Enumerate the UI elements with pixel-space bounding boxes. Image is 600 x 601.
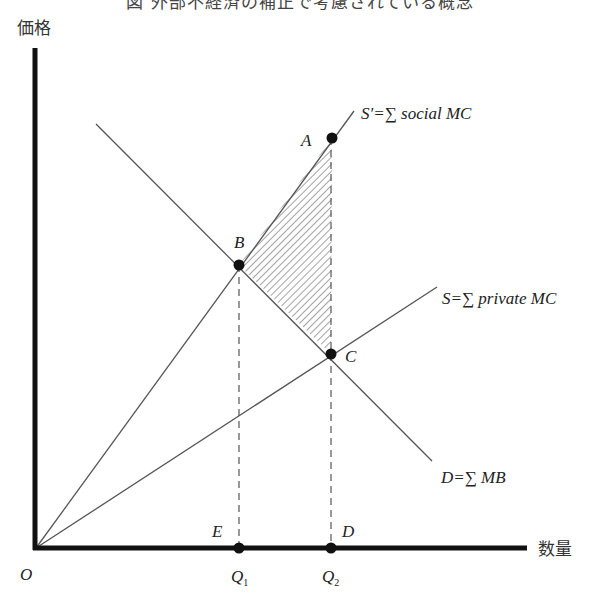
externality-diagram: 価格 数量 O A B C E D Q1 Q2 S′=∑ social MC S…	[0, 0, 600, 601]
label-c: C	[345, 347, 357, 366]
private-mc-label: S=∑ private MC	[442, 289, 557, 308]
point-b	[234, 260, 245, 271]
origin-label: O	[20, 565, 32, 584]
x-axis-label: 数量	[538, 539, 572, 559]
tick-q2: Q2	[322, 567, 339, 588]
private-mc-curve	[36, 287, 437, 548]
y-axis-label: 価格	[17, 18, 51, 38]
deadweight-loss-area	[239, 138, 332, 354]
label-a: A	[300, 131, 312, 150]
point-c	[326, 349, 337, 360]
point-a	[327, 133, 338, 144]
social-mc-label: S′=∑ social MC	[361, 104, 472, 123]
tick-q1: Q1	[231, 567, 248, 588]
demand-curve	[96, 124, 432, 461]
demand-label: D=∑ MB	[440, 468, 506, 487]
label-d: D	[341, 522, 355, 541]
diagram-container: 図 外部不経済の補正で考慮されている概念 価格 数量 O	[0, 0, 600, 601]
label-e: E	[211, 522, 223, 541]
point-e	[234, 543, 245, 554]
label-b: B	[234, 233, 245, 252]
point-d	[326, 543, 337, 554]
